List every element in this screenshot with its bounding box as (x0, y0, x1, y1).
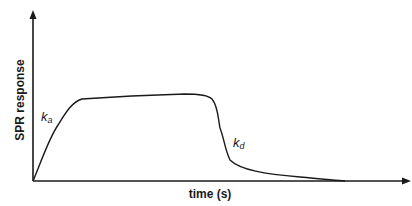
sensorgram-curve (33, 94, 345, 181)
sensorgram-figure: ka kd SPR response time (s) (0, 0, 412, 206)
association-rate-label: ka (41, 109, 53, 125)
sensorgram-svg: ka kd SPR response time (s) (0, 0, 412, 206)
x-axis-title: time (s) (189, 187, 232, 201)
x-axis-arrow-icon (402, 178, 411, 185)
y-axis-title: SPR response (13, 59, 27, 141)
dissociation-rate-label: kd (233, 135, 246, 151)
y-axis-arrow-icon (30, 10, 37, 19)
